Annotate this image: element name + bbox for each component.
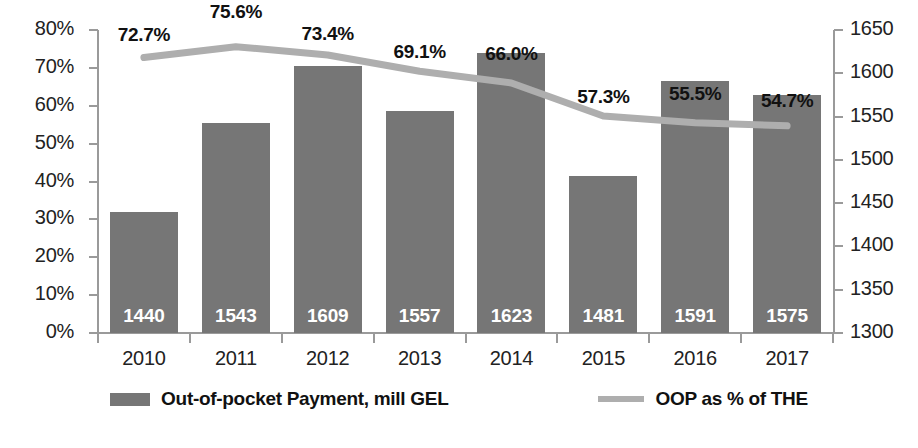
right-axis-tick-label: 1450 bbox=[850, 190, 893, 213]
left-axis-tick-mark bbox=[89, 181, 98, 183]
bar[interactable] bbox=[202, 123, 270, 333]
line-value-label: 75.6% bbox=[190, 1, 282, 23]
line-value-label: 57.3% bbox=[557, 86, 649, 108]
left-axis-tick-mark bbox=[89, 294, 98, 296]
left-axis-tick-label: 60% bbox=[35, 93, 74, 116]
x-axis-tick-mark bbox=[648, 334, 650, 343]
bar-value-label: 1440 bbox=[110, 305, 178, 327]
x-axis-tick-mark bbox=[189, 334, 191, 343]
bar-value-label: 1481 bbox=[569, 305, 637, 327]
bar-value-label: 1543 bbox=[202, 305, 270, 327]
x-axis-category-label: 2010 bbox=[98, 347, 190, 370]
left-axis-tick-label: 40% bbox=[35, 169, 74, 192]
chart-legend: Out-of-pocket Payment, mill GEL OOP as %… bbox=[0, 388, 918, 410]
bar-value-label: 1557 bbox=[386, 305, 454, 327]
line-value-label: 69.1% bbox=[374, 41, 466, 63]
plot-area: 14401543160915571623148115911575 bbox=[98, 30, 833, 333]
right-axis-tick-mark bbox=[834, 159, 843, 161]
left-axis-tick-mark bbox=[89, 29, 98, 31]
bar[interactable] bbox=[477, 53, 545, 333]
line-value-label: 55.5% bbox=[649, 83, 741, 105]
right-axis-tick-label: 1400 bbox=[850, 233, 893, 256]
legend-item-line-series: OOP as % of THE bbox=[598, 388, 807, 410]
x-axis-tick-mark bbox=[281, 334, 283, 343]
line-value-label: 54.7% bbox=[741, 90, 833, 112]
x-axis-tick-mark bbox=[465, 334, 467, 343]
legend-item-bar-series: Out-of-pocket Payment, mill GEL bbox=[110, 388, 448, 410]
left-axis-tick-label: 30% bbox=[35, 206, 74, 229]
right-axis-tick-label: 1300 bbox=[850, 320, 893, 343]
left-axis-tick-mark bbox=[89, 67, 98, 69]
line-value-label: 72.7% bbox=[98, 24, 190, 46]
right-axis-tick-label: 1600 bbox=[850, 60, 893, 83]
right-axis-tick-mark bbox=[834, 116, 843, 118]
bar-value-label: 1575 bbox=[753, 305, 821, 327]
left-axis-tick-mark bbox=[89, 105, 98, 107]
right-axis-tick-label: 1500 bbox=[850, 147, 893, 170]
combo-chart: 0%10%20%30%40%50%60%70%80% 1300135014001… bbox=[0, 0, 918, 448]
left-axis-tick-label: 70% bbox=[35, 55, 74, 78]
bar-value-label: 1609 bbox=[294, 305, 362, 327]
legend-label-line-series: OOP as % of THE bbox=[655, 388, 807, 410]
x-axis-category-label: 2016 bbox=[649, 347, 741, 370]
x-axis-category-label: 2017 bbox=[741, 347, 833, 370]
right-axis-tick-mark bbox=[834, 245, 843, 247]
right-axis-tick-label: 1650 bbox=[850, 17, 893, 40]
left-axis-tick-label: 10% bbox=[35, 282, 74, 305]
bar-value-label: 1591 bbox=[661, 305, 729, 327]
x-axis-tick-mark bbox=[832, 334, 834, 343]
right-axis-tick-mark bbox=[834, 289, 843, 291]
x-axis-category-label: 2013 bbox=[374, 347, 466, 370]
right-axis-tick-mark bbox=[834, 29, 843, 31]
line-value-label: 66.0% bbox=[466, 43, 558, 65]
x-axis-tick-mark bbox=[556, 334, 558, 343]
left-axis-tick-mark bbox=[89, 143, 98, 145]
left-axis-tick-label: 50% bbox=[35, 131, 74, 154]
bar[interactable] bbox=[294, 66, 362, 334]
bar[interactable] bbox=[386, 111, 454, 333]
legend-line-swatch-icon bbox=[598, 396, 644, 402]
right-axis-tick-mark bbox=[834, 72, 843, 74]
x-axis-tick-mark bbox=[373, 334, 375, 343]
bar[interactable] bbox=[661, 81, 729, 333]
right-axis-tick-mark bbox=[834, 202, 843, 204]
line-value-label: 73.4% bbox=[282, 23, 374, 45]
left-axis-tick-label: 0% bbox=[46, 320, 74, 343]
x-axis-category-label: 2012 bbox=[282, 347, 374, 370]
x-axis-category-label: 2011 bbox=[190, 347, 282, 370]
right-axis-tick-label: 1550 bbox=[850, 104, 893, 127]
x-axis-tick-mark bbox=[740, 334, 742, 343]
bar[interactable] bbox=[753, 95, 821, 333]
left-axis-tick-label: 80% bbox=[35, 17, 74, 40]
x-axis-category-label: 2015 bbox=[557, 347, 649, 370]
legend-bar-swatch-icon bbox=[110, 393, 150, 406]
right-axis-tick-mark bbox=[834, 332, 843, 334]
x-axis-tick-mark bbox=[97, 334, 99, 343]
bar-value-label: 1623 bbox=[477, 305, 545, 327]
legend-label-bar-series: Out-of-pocket Payment, mill GEL bbox=[161, 388, 448, 410]
right-axis-tick-label: 1350 bbox=[850, 277, 893, 300]
x-axis-category-label: 2014 bbox=[466, 347, 558, 370]
left-axis-tick-label: 20% bbox=[35, 244, 74, 267]
left-axis-tick-mark bbox=[89, 256, 98, 258]
left-axis-tick-mark bbox=[89, 218, 98, 220]
